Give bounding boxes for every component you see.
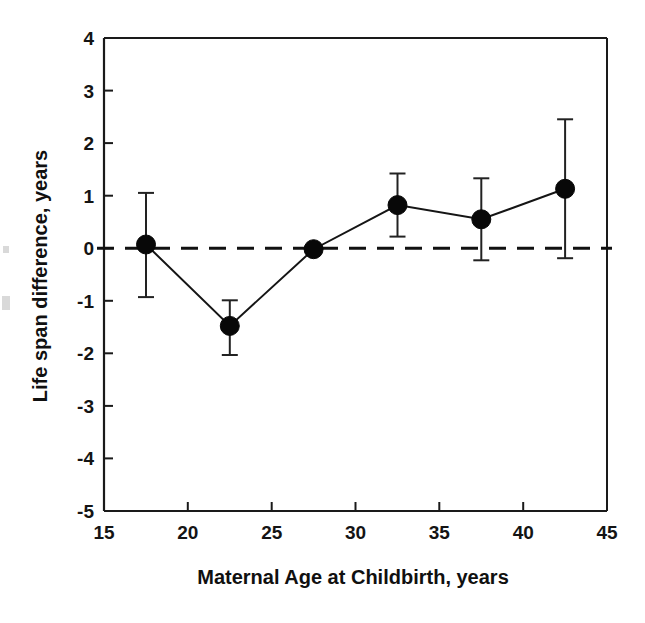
y-tick-label: 2 [83,133,94,154]
y-tick-label: 4 [83,28,94,49]
x-tick-label: 15 [93,522,115,543]
series-line-life-span-difference [146,189,565,326]
x-tick-label: 35 [429,522,451,543]
x-axis-ticks [104,502,607,511]
x-axis-tick-labels: 15 20 25 30 35 40 45 [93,522,618,543]
line-chart-plot: 4 3 2 1 0 -1 -2 -3 -4 -5 15 20 25 30 35 … [0,0,645,623]
data-point-6 [556,179,575,198]
y-tick-label: -2 [77,343,94,364]
x-tick-label: 25 [261,522,283,543]
x-tick-label: 45 [596,522,618,543]
y-tick-label: -5 [77,501,94,522]
y-axis-title: Life span difference, years [29,150,51,402]
y-tick-label: 1 [83,186,94,207]
data-point-2 [220,316,239,335]
data-point-5 [472,210,491,229]
data-point-3 [304,240,323,259]
y-axis-ticks [104,91,113,459]
chart-figure: 4 3 2 1 0 -1 -2 -3 -4 -5 15 20 25 30 35 … [0,0,645,623]
x-tick-label: 20 [177,522,198,543]
error-bars [138,119,573,355]
data-point-markers [137,179,575,335]
x-tick-label: 30 [345,522,366,543]
y-tick-label: 3 [83,81,94,102]
plot-frame [104,38,607,511]
data-point-1 [137,235,156,254]
y-axis-tick-labels: 4 3 2 1 0 -1 -2 -3 -4 -5 [77,28,94,522]
y-tick-label: -4 [77,448,94,469]
y-tick-label: 0 [83,238,94,259]
y-tick-label: -3 [77,396,94,417]
y-tick-label: -1 [77,291,94,312]
x-tick-label: 40 [513,522,534,543]
x-axis-title: Maternal Age at Childbirth, years [197,566,509,588]
data-point-4 [388,196,407,215]
